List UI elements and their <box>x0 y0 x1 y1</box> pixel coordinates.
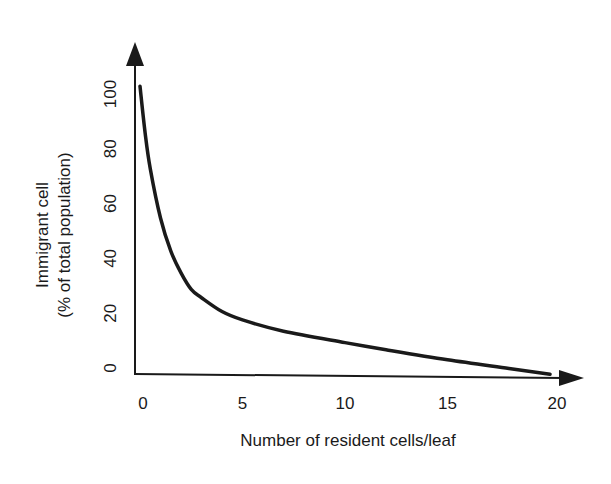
x-axis-arrow-icon <box>559 370 584 386</box>
y-tick-label: 60 <box>101 194 120 213</box>
y-tick-label: 100 <box>101 80 120 108</box>
y-tick-label: 80 <box>101 139 120 158</box>
x-axis <box>135 374 565 378</box>
svg-text:Immigrant cell: Immigrant cell <box>33 182 52 288</box>
y-axis-arrow-icon <box>126 42 144 66</box>
x-tick-label: 15 <box>438 394 457 413</box>
x-tick-labels: 05101520 <box>138 394 566 413</box>
y-tick-label: 40 <box>101 249 120 268</box>
x-tick-label: 20 <box>548 394 567 413</box>
data-curve <box>140 86 550 374</box>
x-axis-label: Number of resident cells/leaf <box>240 431 456 450</box>
x-tick-label: 0 <box>138 394 147 413</box>
x-tick-label: 10 <box>336 394 355 413</box>
y-tick-labels: 020406080100 <box>101 80 120 373</box>
y-axis-label: Immigrant cell (% of total population) <box>33 152 74 317</box>
y-tick-label: 20 <box>101 304 120 323</box>
y-tick-label: 0 <box>101 363 120 372</box>
chart: 020406080100 05101520 Immigrant cell (% … <box>0 0 611 484</box>
svg-text:(% of total population): (% of total population) <box>55 152 74 317</box>
x-tick-label: 5 <box>238 394 247 413</box>
